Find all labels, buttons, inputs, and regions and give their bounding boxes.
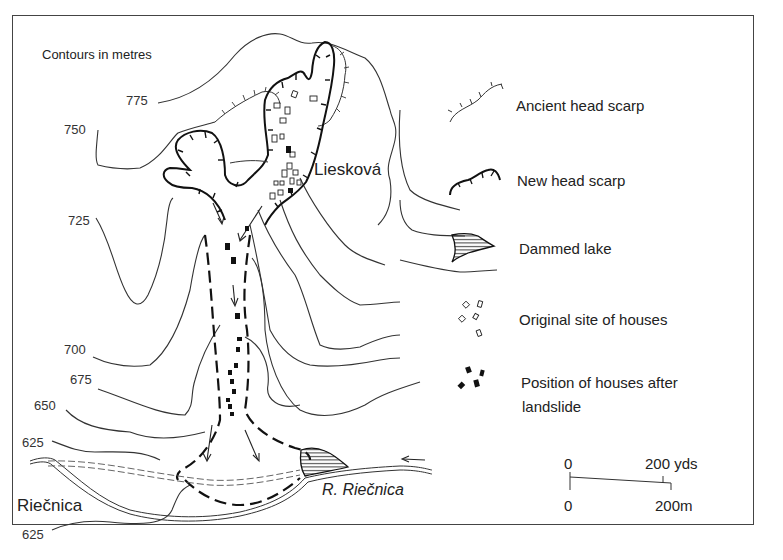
landslide-map: [0, 0, 783, 560]
place-lieskova: Liesková: [314, 160, 381, 180]
scale-top-end: 200 yds: [645, 455, 698, 472]
contour-label-700: 700: [64, 342, 86, 357]
moved-houses-icon: [457, 366, 484, 389]
legend-original-houses: Original site of houses: [519, 311, 667, 328]
legend-ancient-head-scarp: Ancient head scarp: [516, 97, 644, 114]
contour-label-675: 675: [70, 372, 92, 387]
contour-label-650: 650: [34, 398, 56, 413]
river-label: R. Riečnica: [322, 481, 404, 499]
flow-arrows: [203, 203, 425, 462]
scale-bottom-end: 200m: [655, 497, 693, 514]
new-head-scarp: [164, 42, 334, 225]
old-road: [48, 461, 300, 486]
legend-moved-houses-line2: landslide: [522, 398, 581, 415]
moved-houses: [225, 146, 293, 416]
dammed-lake-icon: [452, 234, 494, 262]
contour-note: Contours in metres: [42, 47, 152, 62]
legend-dammed-lake: Dammed lake: [519, 240, 612, 257]
contour-label-750: 750: [64, 122, 86, 137]
scale-top-start: 0: [564, 455, 572, 472]
contour-label-725: 725: [68, 213, 90, 228]
original-houses: [270, 90, 317, 199]
original-houses-icon: [458, 301, 482, 337]
landslide-track: [177, 235, 310, 505]
scale-bar: [570, 472, 671, 490]
contour-label-775: 775: [126, 93, 148, 108]
scale-bottom-start: 0: [564, 497, 572, 514]
contour-label-625-upper: 625: [22, 435, 44, 450]
new-head-scarp-icon: [450, 169, 500, 195]
place-riecnica: Riečnica: [17, 496, 82, 516]
contour-label-625-lower: 625: [22, 527, 44, 542]
ancient-head-scarp-icon: [448, 82, 503, 122]
legend-moved-houses-line1: Position of houses after: [521, 374, 678, 391]
legend-new-head-scarp: New head scarp: [517, 172, 625, 189]
